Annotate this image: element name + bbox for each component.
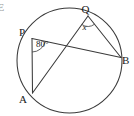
main-circle	[17, 8, 122, 113]
chord-segment-aq	[33, 16, 89, 93]
vertex-label-q: Q	[82, 3, 90, 15]
vertex-label-a: A	[19, 93, 27, 105]
vertex-label-p: P	[19, 26, 25, 38]
geometry-canvas: P Q A B 80° x E	[0, 0, 134, 116]
chord-segment-pa	[32, 39, 33, 94]
vertex-label-b: B	[122, 54, 129, 66]
angle-measure-label-80-degrees: 80°	[36, 39, 49, 49]
cropped-edge-glyph: E	[0, 1, 5, 13]
circle-geometry-figure: P Q A B 80° x E	[0, 0, 134, 116]
angle-measure-label-x: x	[82, 22, 87, 32]
